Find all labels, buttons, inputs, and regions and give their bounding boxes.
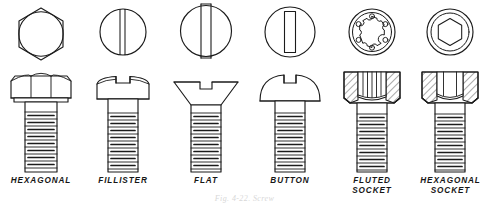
hexagonal-side-view [11, 73, 71, 172]
figure-hexagonal-socket: HEXAGONAL SOCKET [412, 0, 489, 205]
label-button: BUTTON [248, 176, 332, 186]
hexagonal-socket-side-view [422, 72, 478, 172]
label-fluted-socket: FLUTED SOCKET [332, 176, 412, 195]
button-top-view [265, 7, 315, 57]
figure-fluted-socket: FLUTED SOCKET [332, 0, 412, 205]
flat-side-view [174, 82, 238, 172]
figure-caption: Fig. 4-22. Screw [0, 194, 489, 203]
label-hexagonal: HEXAGONAL [0, 176, 82, 186]
fillister-top-view [100, 9, 146, 55]
hexagonal-top-view [19, 8, 63, 60]
hexagonal-socket-top-view [427, 9, 473, 55]
label-fillister: FILLISTER [82, 176, 164, 186]
figure-fillister: FILLISTER [82, 0, 164, 205]
fluted-socket-views [332, 0, 412, 175]
button-views [248, 0, 332, 175]
flat-top-view [181, 4, 232, 58]
fillister-side-view [97, 77, 149, 173]
hexagonal-views [0, 0, 82, 175]
figure-hexagonal: HEXAGONAL [0, 0, 82, 205]
fluted-socket-top-view [349, 9, 395, 55]
screw-head-types-plate: HEXAGONAL [0, 0, 489, 205]
label-hexagonal-socket: HEXAGONAL SOCKET [412, 176, 489, 195]
label-flat: FLAT [164, 176, 248, 186]
hexagonal-socket-views [412, 0, 489, 175]
figure-flat: FLAT [164, 0, 248, 205]
fluted-socket-side-view [344, 72, 400, 172]
fillister-views [82, 0, 164, 175]
figure-button: BUTTON [248, 0, 332, 205]
flat-views [164, 0, 248, 175]
button-side-view [260, 75, 320, 172]
